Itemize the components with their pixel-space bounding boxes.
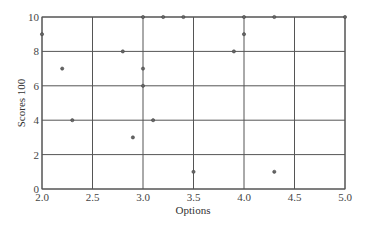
data-point-marker [242,33,245,36]
chart-grid [42,17,345,189]
y-tick-label: 0 [34,183,40,195]
data-point-marker [182,15,185,18]
y-axis-label: Scores 100 [15,78,27,127]
x-tick-label: 3.5 [187,191,201,203]
scatter-chart: 2.02.53.03.54.04.55.0 0246810 Options Sc… [0,0,369,229]
data-point-marker [232,50,235,53]
data-point-marker [152,119,155,122]
y-tick-label: 2 [34,149,40,161]
data-point-marker [273,170,276,173]
data-point-marker [141,67,144,70]
data-point-marker [343,15,346,18]
data-point-marker [40,33,43,36]
data-point-marker [141,84,144,87]
data-point-marker [141,15,144,18]
x-tick-label: 2.5 [86,191,100,203]
x-axis-ticks: 2.02.53.03.54.04.55.0 [35,191,352,203]
data-point-marker [162,15,165,18]
y-axis-ticks: 0246810 [28,11,40,195]
data-point-marker [131,136,134,139]
x-tick-label: 4.0 [237,191,251,203]
y-tick-label: 8 [34,45,40,57]
x-axis-label: Options [176,204,211,216]
data-point-marker [192,170,195,173]
data-point-marker [61,67,64,70]
data-point-marker [273,15,276,18]
data-point-marker [121,50,124,53]
data-point-marker [242,15,245,18]
y-tick-label: 4 [34,114,40,126]
x-tick-label: 3.0 [136,191,150,203]
data-point-marker [71,119,74,122]
y-tick-label: 6 [34,80,40,92]
y-tick-label: 10 [28,11,40,23]
x-tick-label: 4.5 [288,191,302,203]
x-tick-label: 5.0 [338,191,352,203]
